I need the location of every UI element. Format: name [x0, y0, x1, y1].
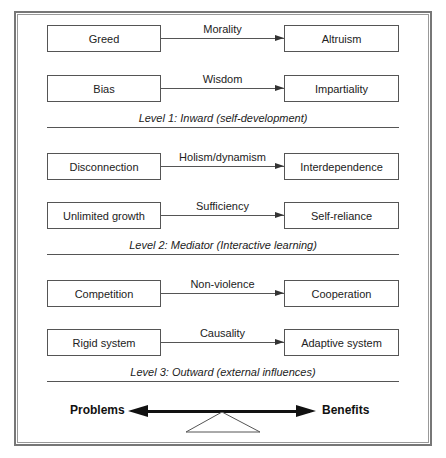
level-1-caption: Level 1: Inward (self-development): [47, 112, 399, 124]
connector-label-causality: Causality: [161, 327, 284, 339]
arrowhead-icon: [275, 85, 284, 91]
benefit-box-self-reliance: Self-reliance: [284, 202, 399, 229]
arrowhead-icon: [275, 212, 284, 218]
benefits-label: Benefits: [322, 403, 369, 417]
connector-label-wisdom: Wisdom: [161, 73, 284, 85]
problem-box-unlimited-growth: Unlimited growth: [47, 202, 161, 229]
arrowhead-icon: [275, 339, 284, 345]
connector-label-non-violence: Non-violence: [161, 278, 284, 290]
level-2-rule: [47, 254, 399, 255]
problem-box-rigid-system: Rigid system: [47, 329, 161, 356]
arrow-connector: [161, 293, 284, 294]
problems-label: Problems: [70, 403, 125, 417]
connector-label-sufficiency: Sufficiency: [161, 200, 284, 212]
level-2-caption: Level 2: Mediator (Interactive learning): [47, 239, 399, 251]
problem-box-greed: Greed: [47, 25, 161, 52]
arrow-right-icon: [296, 405, 316, 417]
problem-box-bias: Bias: [47, 75, 161, 102]
benefit-box-adaptive-system: Adaptive system: [284, 329, 399, 356]
arrow-connector: [161, 38, 284, 39]
benefit-box-interdependence: Interdependence: [284, 153, 399, 180]
arrowhead-icon: [275, 35, 284, 41]
arrowhead-icon: [275, 290, 284, 296]
arrow-connector: [161, 215, 284, 216]
level-3-caption: Level 3: Outward (external influences): [47, 366, 399, 378]
arrow-connector: [161, 166, 284, 167]
connector-label-morality: Morality: [161, 23, 284, 35]
level-3-rule: [47, 381, 399, 382]
arrow-connector: [161, 342, 284, 343]
problem-box-competition: Competition: [47, 280, 161, 307]
connector-label-holism: Holism/dynamism: [161, 151, 284, 163]
arrow-connector: [161, 88, 284, 89]
benefit-box-cooperation: Cooperation: [284, 280, 399, 307]
problem-box-disconnection: Disconnection: [47, 153, 161, 180]
fulcrum-triangle-icon: [185, 412, 261, 434]
benefit-box-altruism: Altruism: [284, 25, 399, 52]
level-1-rule: [47, 127, 399, 128]
arrowhead-icon: [275, 163, 284, 169]
benefit-box-impartiality: Impartiality: [284, 75, 399, 102]
